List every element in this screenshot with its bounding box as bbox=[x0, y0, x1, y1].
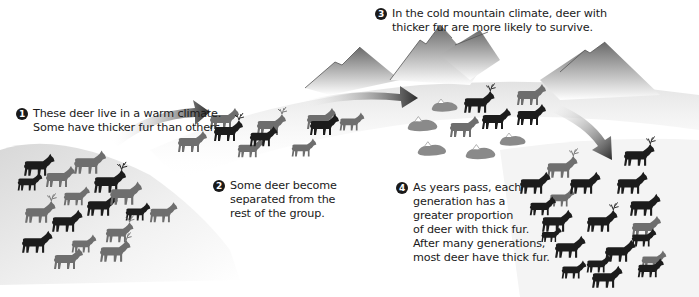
caption-line: of deer with thick fur. bbox=[413, 223, 550, 237]
caption-line: After many generations, bbox=[413, 237, 550, 251]
step-2-caption: 2 Some deer become separated from the re… bbox=[230, 179, 337, 221]
caption-line: most deer have thick fur. bbox=[413, 251, 550, 265]
step-1-caption: 1 These deer live in a warm climate. Som… bbox=[33, 107, 223, 135]
caption-line: Some have thicker fur than others. bbox=[33, 121, 223, 135]
natural-selection-diagram bbox=[0, 0, 699, 297]
step-number-badge: 3 bbox=[375, 8, 387, 20]
caption-line: As years pass, each bbox=[413, 181, 550, 195]
step-number-badge: 2 bbox=[213, 180, 225, 192]
step-4-caption: 4 As years pass, each generation has a g… bbox=[413, 181, 550, 265]
caption-line: thicker fur are more likely to survive. bbox=[392, 21, 607, 35]
step-3-caption: 3 In the cold mountain climate, deer wit… bbox=[392, 7, 607, 35]
step-number-badge: 1 bbox=[16, 108, 28, 120]
caption-line: These deer live in a warm climate. bbox=[33, 107, 223, 121]
caption-line: Some deer become bbox=[230, 179, 337, 193]
caption-line: In the cold mountain climate, deer with bbox=[392, 7, 607, 21]
caption-line: generation has a bbox=[413, 195, 550, 209]
caption-line: rest of the group. bbox=[230, 207, 337, 221]
step-number-badge: 4 bbox=[396, 182, 408, 194]
caption-line: separated from the bbox=[230, 193, 337, 207]
caption-line: greater proportion bbox=[413, 209, 550, 223]
